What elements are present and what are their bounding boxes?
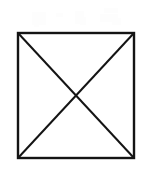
canvas-background bbox=[0, 0, 145, 177]
square-with-diagonals-drawing bbox=[0, 0, 145, 177]
scan-artifact-mark bbox=[104, 8, 118, 13]
scan-artifact-mark bbox=[56, 13, 63, 17]
scan-artifact-mark bbox=[112, 18, 121, 25]
scan-artifact-mark bbox=[80, 17, 86, 25]
scan-artifact-mark bbox=[34, 18, 39, 27]
figure-canvas: Square with diagonals bbox=[0, 0, 145, 177]
